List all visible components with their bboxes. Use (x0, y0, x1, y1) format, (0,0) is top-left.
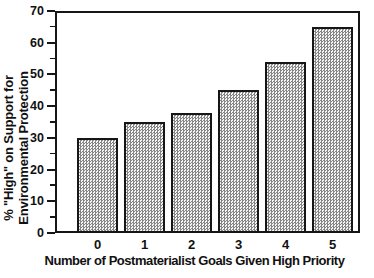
bar-chart-figure: % "High" on Support for Environmental Pr… (0, 0, 374, 278)
x-tick-label: 5 (318, 237, 348, 252)
y-tick-label: 20 (18, 162, 44, 178)
y-axis-minor-tick (50, 26, 55, 28)
y-tick-label: 40 (18, 98, 44, 114)
bar-category-2 (171, 113, 212, 234)
y-axis-major-tick (47, 169, 55, 171)
x-axis-title: Number of Postmaterialist Goals Given Hi… (22, 253, 367, 268)
bar-category-1 (124, 122, 165, 233)
y-axis-major-tick (47, 42, 55, 44)
y-axis-major-tick (47, 232, 55, 234)
y-axis-minor-tick (50, 89, 55, 91)
y-tick-label: 60 (18, 35, 44, 51)
plot-area (55, 11, 360, 233)
bar-category-0 (77, 138, 118, 233)
bar-category-3 (218, 90, 259, 233)
bar-category-5 (312, 27, 353, 233)
y-axis-major-tick (47, 137, 55, 139)
y-axis-major-tick (47, 105, 55, 107)
x-tick-label: 1 (130, 237, 160, 252)
y-axis-minor-tick (50, 121, 55, 123)
y-axis-minor-tick (50, 58, 55, 60)
y-axis-major-tick (47, 200, 55, 202)
y-axis-minor-tick (50, 153, 55, 155)
y-tick-label: 0 (18, 225, 44, 241)
x-tick-label: 2 (177, 237, 207, 252)
x-tick-label: 0 (83, 237, 113, 252)
y-tick-label: 50 (18, 66, 44, 82)
y-axis-major-tick (47, 73, 55, 75)
bar-category-4 (265, 62, 306, 233)
y-tick-label: 30 (18, 130, 44, 146)
y-axis-minor-tick (50, 216, 55, 218)
y-axis-label-line1: % "High" on Support for (1, 23, 16, 273)
y-tick-label: 70 (18, 3, 44, 19)
y-axis-major-tick (47, 10, 55, 12)
y-axis-minor-tick (50, 184, 55, 186)
x-tick-label: 3 (224, 237, 254, 252)
y-tick-label: 10 (18, 193, 44, 209)
x-tick-label: 4 (271, 237, 301, 252)
